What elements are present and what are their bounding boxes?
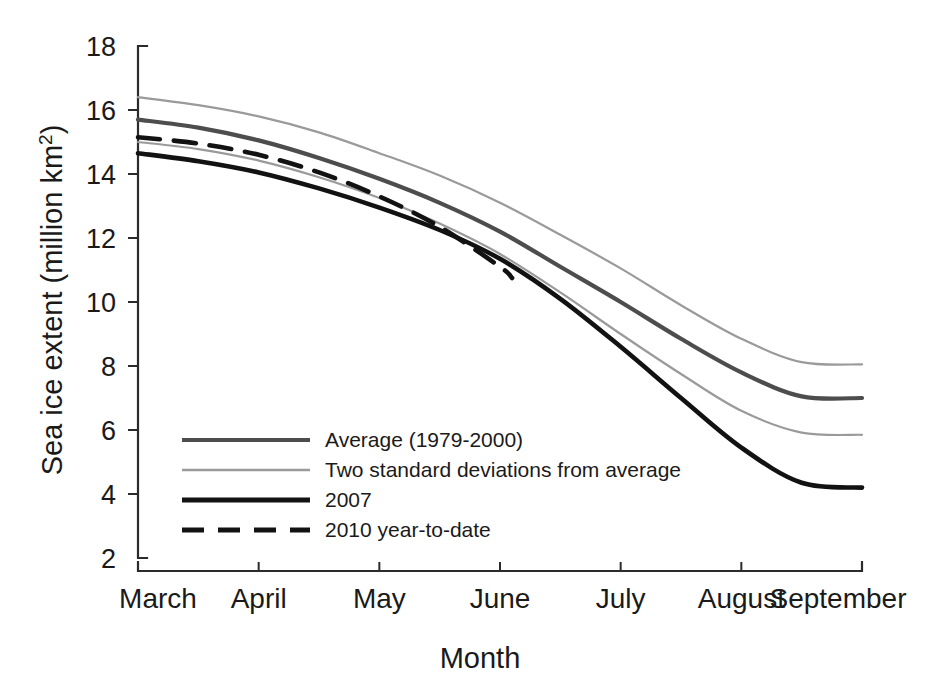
y-axis-line xyxy=(138,46,147,558)
x-tick-label-june: June xyxy=(470,583,531,614)
y-axis-title-close: ) xyxy=(36,125,68,135)
x-axis-tick-labels: MarchAprilMayJuneJulyAugustSeptember xyxy=(119,583,906,614)
x-axis-ticks xyxy=(259,562,742,571)
y-axis-title-main: Sea ice extent (million km xyxy=(36,145,68,475)
legend-label-average-1979-2000: Average (1979-2000) xyxy=(325,428,523,451)
x-tick-label-april: April xyxy=(231,583,287,614)
legend-label-two-standard-deviations-from-average: Two standard deviations from average xyxy=(325,458,681,481)
y-axis-title: Sea ice extent (million km2) xyxy=(35,125,68,476)
y-tick-label-10: 10 xyxy=(86,288,116,318)
legend-label-2007: 2007 xyxy=(325,488,372,511)
y-tick-label-4: 4 xyxy=(101,480,116,510)
chart-legend: Average (1979-2000)Two standard deviatio… xyxy=(182,428,681,541)
y-axis-title-superscript: 2 xyxy=(35,134,56,145)
sea-ice-extent-chart: 18161412108642 MarchAprilMayJuneJulyAugu… xyxy=(0,0,947,697)
y-tick-label-16: 16 xyxy=(86,96,116,126)
y-tick-label-8: 8 xyxy=(101,352,116,382)
y-tick-label-18: 18 xyxy=(86,32,116,62)
y-tick-label-6: 6 xyxy=(101,416,116,446)
x-tick-label-march: March xyxy=(119,583,197,614)
chart-canvas: 18161412108642 MarchAprilMayJuneJulyAugu… xyxy=(0,0,947,697)
y-tick-label-14: 14 xyxy=(86,160,116,190)
y-tick-label-12: 12 xyxy=(86,224,116,254)
x-tick-label-july: July xyxy=(596,583,646,614)
y-axis-ticks xyxy=(128,110,138,494)
x-axis-title: Month xyxy=(440,642,521,674)
x-tick-label-may: May xyxy=(353,583,406,614)
legend-label-2010-year-to-date: 2010 year-to-date xyxy=(325,518,491,541)
y-axis-tick-labels: 18161412108642 xyxy=(86,32,116,574)
series-two-standard-deviations-from-average-lower xyxy=(138,142,862,435)
x-tick-label-september: September xyxy=(770,583,907,614)
y-tick-label-2: 2 xyxy=(101,544,116,574)
